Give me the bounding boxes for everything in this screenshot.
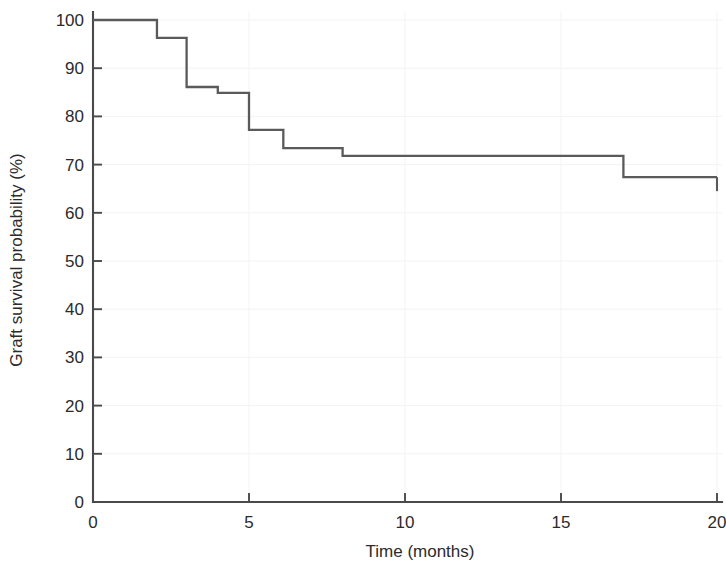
y-tick-label: 60 [65,204,84,223]
x-axis-title: Time (months) [366,542,475,561]
y-tick-label: 10 [65,445,84,464]
x-tick-label: 0 [88,513,97,532]
y-tick-label: 50 [65,252,84,271]
y-tick-label: 40 [65,300,84,319]
y-tick-label: 100 [56,11,84,30]
kaplan-meier-figure: 0102030405060708090100 05101520 Graft su… [0,0,726,565]
y-tick-label: 30 [65,348,84,367]
y-tick-label: 80 [65,107,84,126]
y-tick-label: 0 [75,493,84,512]
y-axis-title: Graft survival probability (%) [7,153,26,367]
chart-background [0,0,726,565]
y-tick-label: 90 [65,59,84,78]
x-tick-label: 10 [396,513,415,532]
x-tick-label: 20 [708,513,726,532]
chart-canvas: 0102030405060708090100 05101520 Graft su… [0,0,726,565]
x-tick-label: 5 [244,513,253,532]
y-tick-label: 20 [65,397,84,416]
x-tick-label: 15 [552,513,571,532]
y-tick-label: 70 [65,156,84,175]
